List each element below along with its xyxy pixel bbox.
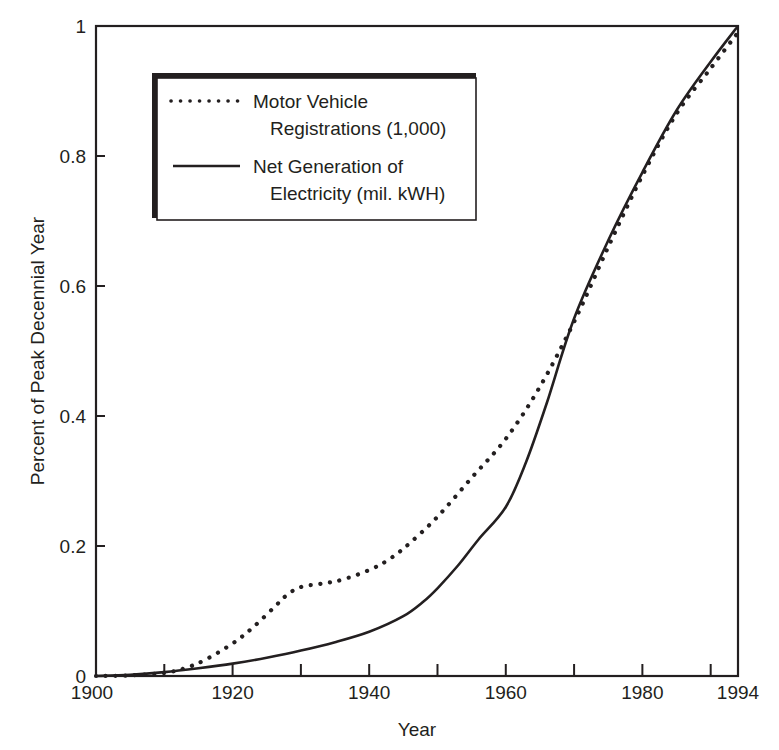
x-axis-ticks bbox=[164, 664, 710, 676]
y-tick-label: 0.6 bbox=[60, 276, 86, 297]
x-tick-label: 1960 bbox=[485, 682, 527, 703]
y-tick-label: 1 bbox=[75, 16, 86, 37]
line-chart: 190019201940196019801994 00.20.40.60.81 … bbox=[0, 0, 779, 750]
y-axis-ticks bbox=[96, 156, 105, 546]
y-axis-tick-labels: 00.20.40.60.81 bbox=[60, 16, 87, 687]
x-tick-label: 1920 bbox=[211, 682, 253, 703]
y-tick-label: 0.2 bbox=[60, 536, 86, 557]
x-tick-label: 1940 bbox=[348, 682, 390, 703]
legend-label-motor-vehicle-line1: Motor Vehicle bbox=[253, 91, 368, 112]
y-tick-label: 0 bbox=[75, 666, 86, 687]
legend-label-electricity-line1: Net Generation of bbox=[253, 156, 404, 177]
y-tick-label: 0.8 bbox=[60, 146, 86, 167]
y-axis-title: Percent of Peak Decennial Year bbox=[27, 216, 48, 485]
y-tick-label: 0.4 bbox=[60, 406, 87, 427]
legend: Motor Vehicle Registrations (1,000) Net … bbox=[152, 73, 476, 220]
legend-label-electricity-line2: Electricity (mil. kWH) bbox=[270, 183, 445, 204]
legend-label-motor-vehicle-line2: Registrations (1,000) bbox=[270, 118, 446, 139]
x-axis-title: Year bbox=[398, 719, 437, 740]
x-axis-tick-labels: 190019201940196019801994 bbox=[71, 682, 760, 703]
x-tick-label: 1980 bbox=[621, 682, 663, 703]
x-tick-label: 1994 bbox=[717, 682, 760, 703]
